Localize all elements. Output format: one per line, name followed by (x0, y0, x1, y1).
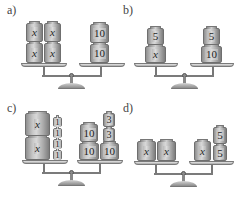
scale-base (170, 181, 197, 187)
weight-x: x (25, 113, 50, 136)
scale-panel-b: b) x 5 10 5 (121, 0, 242, 99)
panel-label-d: d) (123, 101, 133, 116)
weight-x: x (26, 23, 43, 42)
weight-x: x (157, 141, 176, 161)
weight-1: 1 (53, 150, 62, 160)
left-pan (22, 160, 68, 164)
weight-3: 3 (103, 128, 115, 142)
panel-label-a: a) (7, 3, 16, 18)
right-pan (79, 63, 125, 67)
weight-1: 1 (53, 117, 62, 127)
weight-1: 1 (53, 128, 62, 138)
weight-10: 10 (80, 124, 98, 142)
scale-base (58, 83, 85, 89)
weight-5: 5 (213, 127, 227, 144)
weight-x: x (194, 141, 211, 161)
weight-5: 5 (213, 145, 227, 161)
weight-1: 1 (53, 139, 62, 149)
scale-base (58, 180, 85, 186)
scale-base (171, 83, 198, 89)
weight-x: x (44, 23, 61, 42)
weight-10: 10 (201, 46, 222, 63)
weight-10: 10 (79, 143, 99, 160)
weight-5: 5 (147, 28, 164, 45)
weight-x: x (145, 46, 166, 63)
weight-10: 10 (90, 24, 109, 43)
weight-10: 10 (90, 44, 109, 63)
weight-10: 10 (100, 143, 119, 160)
weight-3: 3 (103, 113, 115, 127)
panel-label-b: b) (123, 3, 133, 18)
panel-label-c: c) (7, 101, 16, 116)
weight-x: x (137, 141, 156, 161)
weight-x: x (44, 43, 61, 63)
scale-panel-d: d) x x x 5 5 (121, 99, 242, 198)
scale-panel-a: a) x x x x 10 10 (0, 0, 121, 99)
weight-x: x (25, 137, 50, 160)
weight-x: x (26, 43, 43, 63)
scale-panel-c: c) x x 1 1 1 1 10 10 10 3 3 (0, 99, 121, 198)
weight-5: 5 (203, 28, 220, 45)
